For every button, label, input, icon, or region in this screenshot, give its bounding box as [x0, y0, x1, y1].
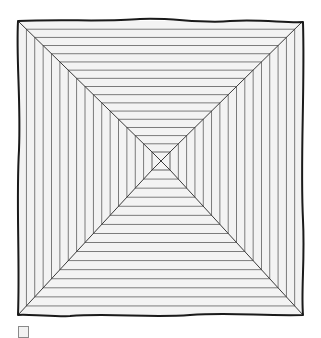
square-thumbnail-icon[interactable]	[18, 326, 29, 338]
drawing-fill	[18, 21, 303, 315]
